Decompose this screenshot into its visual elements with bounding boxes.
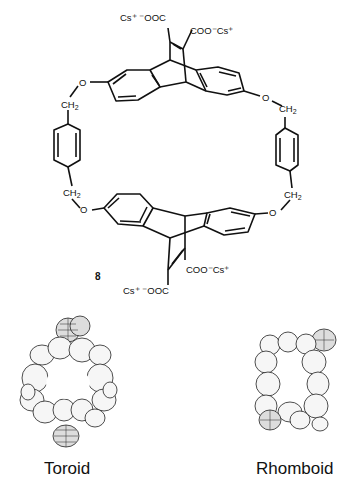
top-left-carboxylate-label: Cs⁺ ⁻OOC <box>120 12 166 23</box>
bottom-right-ch2-label: CH2 <box>284 189 302 201</box>
molecule-structure-drawing <box>0 0 354 487</box>
ch2-text: CH <box>284 189 298 200</box>
ch2-subscript: 2 <box>293 108 297 115</box>
toroid-caption: Toroid <box>44 459 90 479</box>
compound-number: 8 <box>95 271 101 282</box>
top-right-carboxylate-label: COO⁻Cs⁺ <box>190 25 233 36</box>
top-right-oxygen-label: O <box>262 92 269 103</box>
ch2-subscript: 2 <box>298 194 302 201</box>
ch2-subscript: 2 <box>75 104 79 111</box>
rhomboid-caption: Rhomboid <box>256 459 334 479</box>
ch2-text: CH <box>279 103 293 114</box>
bottom-left-oxygen-label: O <box>80 204 87 215</box>
ch2-subscript: 2 <box>77 192 81 199</box>
top-left-ch2-label: CH2 <box>61 99 79 111</box>
bottom-right-oxygen-label: O <box>269 207 276 218</box>
bottom-left-carboxylate-label: Cs⁺ ⁻OOC <box>123 285 169 296</box>
top-right-ch2-label: CH2 <box>279 103 297 115</box>
ch2-text: CH <box>63 187 77 198</box>
bottom-left-ch2-label: CH2 <box>63 187 81 199</box>
ch2-text: CH <box>61 99 75 110</box>
top-left-oxygen-label: O <box>79 77 86 88</box>
bottom-right-carboxylate-label: COO⁻Cs⁺ <box>186 264 229 275</box>
